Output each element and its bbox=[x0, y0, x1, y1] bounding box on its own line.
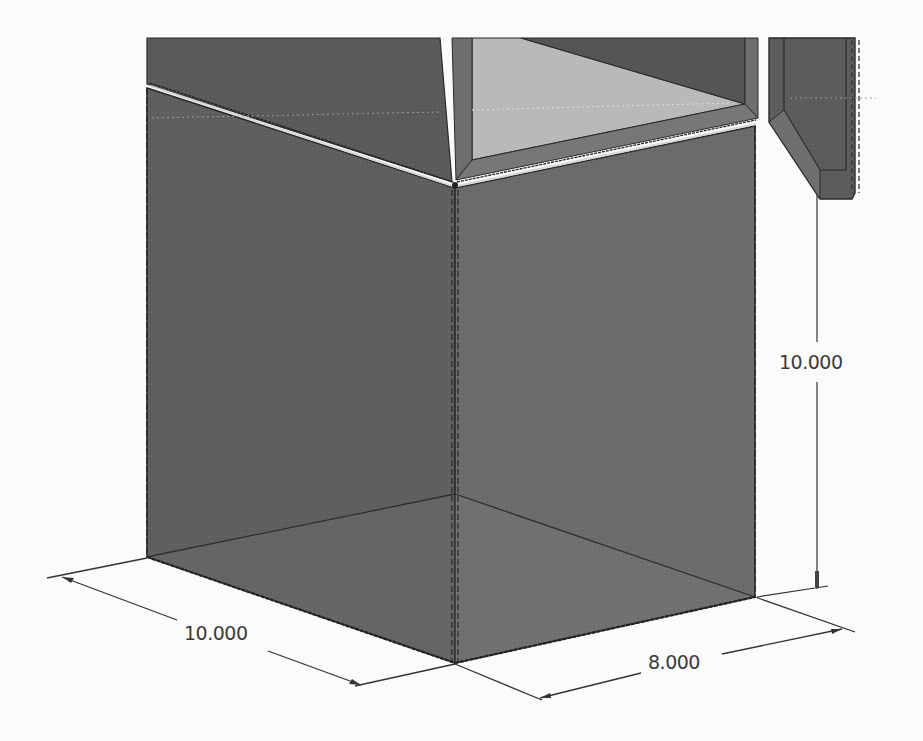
dimension-depth-label: 8.000 bbox=[648, 651, 700, 673]
dimension-height bbox=[757, 195, 828, 597]
door-panel bbox=[769, 38, 876, 199]
dimension-width-label: 10.000 bbox=[184, 622, 247, 644]
dimension-height-label: 10.000 bbox=[779, 351, 842, 373]
